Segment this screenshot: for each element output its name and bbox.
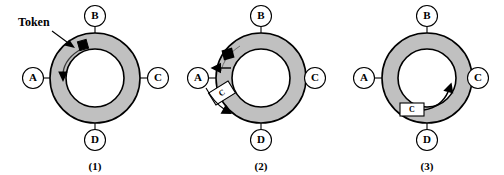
panel-2-node-c[interactable]: C bbox=[305, 68, 326, 89]
panel-3-node-b[interactable]: B bbox=[417, 6, 438, 27]
token-ring-figure: Token A B C D (1) bbox=[0, 0, 504, 175]
panel-2-node-c-label: C bbox=[311, 71, 319, 83]
panel-2-node-b[interactable]: B bbox=[251, 6, 272, 27]
panel-1-caption: (1) bbox=[89, 160, 102, 173]
panel-2-ring-inner bbox=[232, 49, 290, 107]
panel-3-node-c[interactable]: C bbox=[468, 68, 489, 89]
panel-2-node-a-label: A bbox=[194, 71, 202, 83]
panel-2-node-a[interactable]: A bbox=[188, 68, 209, 89]
panel-1-node-c[interactable]: C bbox=[148, 68, 169, 89]
panel-1-node-b-label: B bbox=[91, 9, 99, 21]
panel-3-node-c-label: C bbox=[474, 71, 482, 83]
token-label: Token bbox=[18, 15, 50, 29]
panel-3-node-d[interactable]: D bbox=[417, 130, 438, 151]
panel-1-token bbox=[77, 39, 88, 50]
panel-3-node-b-label: B bbox=[423, 9, 431, 21]
panel-3-node-d-label: D bbox=[423, 133, 431, 145]
panel-2-node-d[interactable]: D bbox=[251, 130, 272, 151]
panel-2-node-b-label: B bbox=[257, 9, 265, 21]
panel-3: C A B C D (3) bbox=[354, 6, 489, 174]
panel-3-frame-label: C bbox=[409, 105, 415, 114]
panel-3-node-a[interactable]: A bbox=[354, 68, 375, 89]
figure-canvas: Token A B C D (1) bbox=[0, 0, 504, 175]
panel-1: Token A B C D (1) bbox=[18, 6, 169, 174]
panel-1-node-b[interactable]: B bbox=[85, 6, 106, 27]
panel-3-caption: (3) bbox=[421, 160, 434, 173]
panel-1-node-d-label: D bbox=[91, 133, 99, 145]
panel-1-node-d[interactable]: D bbox=[85, 130, 106, 151]
panel-3-frame: C bbox=[400, 103, 424, 116]
panel-1-ring-inner bbox=[66, 49, 124, 107]
panel-2: C A B C D (2) bbox=[188, 6, 326, 174]
panel-3-node-a-label: A bbox=[360, 71, 368, 83]
panel-2-node-d-label: D bbox=[257, 133, 265, 145]
panel-1-node-a[interactable]: A bbox=[23, 68, 44, 89]
panel-3-ring-inner bbox=[398, 49, 456, 107]
panel-2-caption: (2) bbox=[255, 160, 268, 173]
panel-1-node-c-label: C bbox=[154, 71, 162, 83]
panel-1-node-a-label: A bbox=[29, 71, 37, 83]
